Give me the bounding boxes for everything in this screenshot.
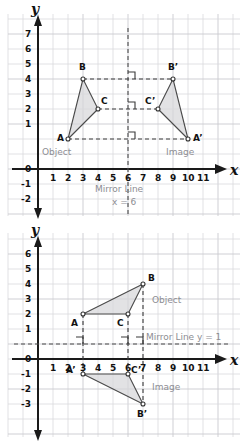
- y-tick-3: 3: [25, 294, 31, 304]
- vertex-label-a: A: [57, 133, 64, 143]
- x-tick-1: 1: [50, 173, 56, 183]
- label-object: Object: [152, 295, 182, 305]
- label-image: Image: [166, 147, 195, 157]
- x-tick-3: 3: [80, 173, 86, 183]
- y-tick-6: 6: [25, 249, 31, 259]
- vertex-label-b: B: [79, 62, 86, 72]
- x-tick-5: 5: [110, 363, 116, 373]
- vertex-label-c: C: [101, 96, 108, 106]
- vertex-label-c: C: [117, 318, 124, 328]
- axis-label-y: y: [30, 223, 40, 238]
- x-tick-1: 1: [50, 363, 56, 373]
- x-tick-3: 3: [80, 363, 86, 373]
- label-image: Image: [152, 382, 181, 392]
- mirror-caption-line1: Mirror Line y = 1: [146, 332, 221, 342]
- y-tick-m2: -2: [21, 194, 31, 204]
- y-tick-0: 0: [25, 354, 31, 364]
- vertex-label-b: B: [148, 273, 155, 283]
- y-tick-2: 2: [25, 309, 31, 319]
- vertex-label-b-prime: B’: [168, 62, 178, 72]
- y-tick-m1: -1: [21, 369, 31, 379]
- x-tick-8: 8: [155, 173, 161, 183]
- x-tick-4: 4: [95, 363, 101, 373]
- mirror-caption-line1: Mirror Line: [95, 184, 144, 194]
- y-tick-7: 7: [25, 29, 31, 39]
- y-tick-1: 1: [25, 119, 31, 129]
- x-tick-9: 9: [170, 363, 176, 373]
- chart-reflection-x6: A B C A’ B’ C’ Object Image Mirror Line …: [0, 0, 245, 223]
- vertex-label-a-prime: A’: [193, 133, 203, 143]
- axis-label-x: x: [229, 162, 239, 178]
- y-tick-4: 4: [25, 279, 31, 289]
- right-angle-marks: [128, 72, 135, 139]
- x-tick-11: 11: [197, 363, 210, 373]
- y-tick-1: 1: [25, 324, 31, 334]
- vertex-label-b-prime: B’: [137, 409, 147, 419]
- x-tick-10: 10: [182, 363, 195, 373]
- chart-2-canvas: A B C A’ B’ C’ Object Image Mirror Line …: [0, 223, 245, 447]
- vertex-label-a: A: [71, 318, 78, 328]
- x-tick-5: 5: [110, 173, 116, 183]
- y-tick-labels: 7 6 5 4 3 2 1 0 -1 -2: [21, 29, 31, 204]
- y-tick-0: 0: [25, 164, 31, 174]
- mirror-caption-line2: x = 6: [112, 197, 137, 207]
- right-angle-marks: [76, 337, 143, 344]
- y-tick-4: 4: [25, 74, 31, 84]
- y-tick-3: 3: [25, 89, 31, 99]
- y-tick-5: 5: [25, 59, 31, 69]
- chart-1-canvas: A B C A’ B’ C’ Object Image Mirror Line …: [0, 0, 245, 223]
- x-tick-6: 6: [125, 363, 131, 373]
- chart-reflection-y1: A B C A’ B’ C’ Object Image Mirror Line …: [0, 223, 245, 447]
- x-tick-11: 11: [197, 173, 210, 183]
- axis-label-x: x: [229, 352, 239, 368]
- y-tick-m3: -3: [21, 399, 31, 409]
- vertex-label-c-prime: C’: [145, 96, 155, 106]
- x-tick-2: 2: [65, 363, 71, 373]
- y-tick-m1: -1: [21, 179, 31, 189]
- x-tick-2: 2: [65, 173, 71, 183]
- x-tick-7: 7: [140, 173, 146, 183]
- axis-label-y: y: [30, 1, 40, 17]
- x-tick-labels: 1 2 3 4 5 6 7 8 9 10 11: [50, 173, 210, 183]
- label-object: Object: [42, 147, 72, 157]
- x-tick-6: 6: [125, 173, 131, 183]
- x-tick-9: 9: [170, 173, 176, 183]
- x-tick-4: 4: [95, 173, 101, 183]
- y-tick-m2: -2: [21, 384, 31, 394]
- y-tick-6: 6: [25, 44, 31, 54]
- x-tick-10: 10: [182, 173, 195, 183]
- y-tick-2: 2: [25, 104, 31, 114]
- x-tick-7: 7: [140, 363, 146, 373]
- x-tick-8: 8: [155, 363, 161, 373]
- y-tick-5: 5: [25, 264, 31, 274]
